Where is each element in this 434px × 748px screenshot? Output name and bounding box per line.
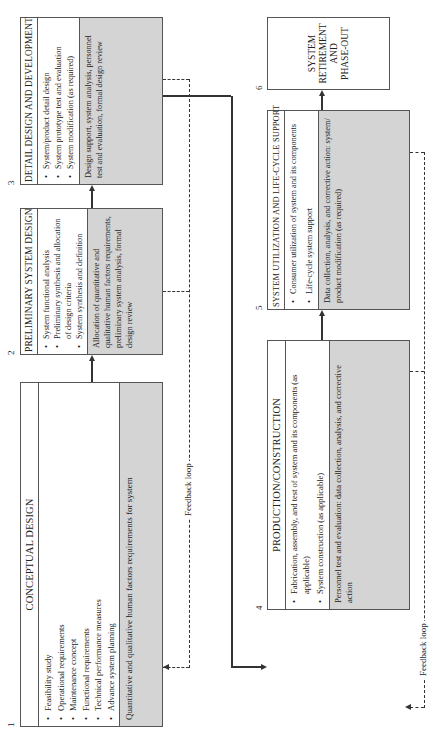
arrow-head: [319, 310, 325, 316]
box-title: CONCEPTUAL DESIGN: [21, 383, 39, 726]
bullet-item: Life-cycle system support: [304, 115, 316, 303]
box-title: PRELIMINARY SYSTEM DESIGN: [21, 209, 38, 354]
box-title-line: SYSTEM: [307, 35, 318, 72]
arrow-head: [89, 355, 95, 361]
box-number-3: 3: [6, 181, 16, 186]
feedback-line: [163, 291, 189, 292]
bullet-item: System synthesis and definition: [74, 213, 85, 348]
box-title-line: RETIREMENT: [318, 23, 329, 83]
feedback-loop-label: Feedback loop: [418, 621, 428, 678]
box-title-line: PHASE-OUT: [340, 27, 351, 80]
feedback-line: [163, 79, 189, 80]
box-title-line: AND: [329, 43, 340, 64]
box-preliminary-system-design: PRELIMINARY SYSTEM DESIGN System functio…: [20, 208, 163, 355]
box-conceptual-design: CONCEPTUAL DESIGN Feasibility study Oper…: [20, 382, 163, 727]
box-number-1: 1: [6, 723, 16, 728]
bullet-list: Feasibility study Operational requiremen…: [39, 383, 119, 726]
box-number-6: 6: [254, 86, 264, 91]
box-title: DETAIL DESIGN AND DEVELOPMENT: [21, 18, 38, 184]
flow-line-4-5: [321, 316, 323, 340]
human-factors-section: Quantitative and qualitative human facto…: [119, 383, 162, 726]
arrow-head: [319, 90, 325, 96]
bullet-item: Operational requirements: [55, 387, 68, 720]
arrow-head: [163, 664, 169, 670]
human-factors-section: Allocation of quantitative and qualitati…: [87, 209, 162, 354]
flow-line-3-4-a: [163, 96, 231, 98]
bullet-item: System prototype test and evaluation: [53, 22, 65, 178]
box-production-construction: PRODUCTION/CONSTRUCTION Fabrication, ass…: [267, 340, 410, 610]
arrow-head: [261, 664, 267, 670]
flow-line-5-6: [321, 96, 323, 110]
human-factors-section: Personnel test and evaluation: data coll…: [329, 341, 410, 609]
box-system-utilization-support: SYSTEM UTILIZATION AND LIFE-CYCLE SUPPOR…: [267, 110, 410, 310]
feedback-line: [410, 371, 424, 372]
bullet-item: Consumer utilization of system and its c…: [288, 115, 300, 303]
arrow-head: [89, 185, 95, 191]
bullet-item: Functional requirements: [80, 387, 93, 720]
bullet-item: Technical performance measures: [92, 387, 105, 720]
bullet-item: System/product detail design: [41, 22, 53, 178]
bullet-list: System/product detail design System prot…: [38, 18, 79, 184]
bullet-item: System modification (as required): [65, 22, 77, 178]
feedback-loop-label: Feedback loop: [183, 461, 193, 518]
arrow-head: [405, 704, 411, 710]
bullet-item: System construction (as applicable): [315, 345, 327, 603]
bullet-list: Consumer utilization of system and its c…: [285, 111, 318, 309]
box-number-2: 2: [6, 351, 16, 356]
human-factors-section: Data collection, analysis, and correctiv…: [318, 111, 409, 309]
feedback-line: [410, 707, 424, 708]
bullet-list: Fabrication, assembly, and test of syste…: [286, 341, 329, 609]
flow-line-2-3: [91, 191, 93, 208]
flow-line-3-4-c: [231, 667, 261, 669]
bullet-item: Feasibility study: [42, 387, 55, 720]
flow-line-3-4-b: [231, 96, 233, 668]
bullet-list: System functional analysis Preliminary s…: [38, 209, 87, 354]
bullet-item: Preliminary synthesis and allocation of …: [52, 213, 74, 348]
diagram-canvas: 1 CONCEPTUAL DESIGN Feasibility study Op…: [0, 0, 434, 748]
box-title: SYSTEM UTILIZATION AND LIFE-CYCLE SUPPOR…: [268, 111, 285, 309]
bullet-item: Advance system planning: [105, 387, 118, 720]
flow-line-1-2: [91, 361, 93, 382]
box-number-4: 4: [254, 606, 264, 611]
box-detail-design-development: DETAIL DESIGN AND DEVELOPMENT System/pro…: [20, 17, 163, 185]
bullet-item: Fabrication, assembly, and test of syste…: [289, 345, 312, 603]
feedback-line: [410, 152, 424, 153]
bullet-item: System functional analysis: [41, 213, 52, 348]
box-title: PRODUCTION/CONSTRUCTION: [268, 341, 286, 609]
box-number-5: 5: [254, 306, 264, 311]
bullet-item: Maintenance concept: [67, 387, 80, 720]
box-system-retirement: SYSTEM RETIREMENT AND PHASE-OUT: [267, 17, 390, 90]
feedback-line: [189, 79, 190, 668]
human-factors-section: Design support, system analysis, personn…: [79, 18, 162, 184]
